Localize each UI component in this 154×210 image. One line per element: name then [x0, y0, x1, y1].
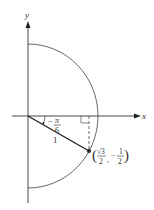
point-coordinate-label: ( √3 2 , − 1 2 ) — [92, 147, 129, 166]
angle-label-numerator: π — [55, 116, 60, 125]
y-coord-denominator: 2 — [118, 157, 122, 166]
unit-circle-diagram: y x − π 6 1 ( √3 2 , − 1 2 ) — [0, 0, 154, 210]
x-coord-numerator: √3 — [97, 147, 105, 156]
angle-label-sign: − — [48, 117, 53, 126]
x-coord-denominator: 2 — [99, 157, 103, 166]
x-axis-label: x — [141, 111, 146, 121]
y-coord-sign: − — [111, 151, 115, 160]
y-axis-arrow-icon — [26, 21, 31, 28]
angle-arc-tip — [43, 122, 45, 124]
point-marker — [87, 149, 91, 153]
radius-label: 1 — [53, 135, 58, 145]
right-angle-mark — [81, 116, 89, 123]
x-axis-arrow-icon — [134, 114, 141, 119]
angle-label-denominator: 6 — [55, 126, 59, 135]
y-axis-label: y — [24, 10, 29, 20]
close-paren: ) — [124, 147, 129, 164]
y-coord-numerator: 1 — [119, 147, 123, 156]
comma: , — [107, 155, 109, 164]
